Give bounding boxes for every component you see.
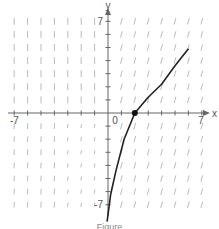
slope-segment bbox=[161, 188, 163, 194]
slope-segment bbox=[201, 31, 203, 37]
slope-segment bbox=[81, 124, 82, 128]
slope-segment bbox=[161, 175, 163, 181]
slope-segment bbox=[68, 124, 69, 128]
slope-segment bbox=[121, 136, 123, 142]
slope-segment bbox=[121, 31, 123, 37]
slope-segment bbox=[161, 18, 163, 24]
slope-segment bbox=[188, 123, 190, 129]
slope-segment bbox=[174, 84, 176, 90]
slope-segment bbox=[174, 202, 176, 208]
slope-segment bbox=[147, 71, 149, 77]
slope-segment bbox=[161, 44, 163, 50]
slope-segment bbox=[147, 57, 149, 63]
y-tick-label-max: 7 bbox=[97, 16, 103, 27]
slope-segment bbox=[188, 84, 190, 90]
slope-segment bbox=[134, 149, 136, 155]
slope-segment bbox=[147, 31, 149, 37]
slope-segment bbox=[121, 97, 123, 103]
slope-segment bbox=[81, 137, 82, 141]
slope-segment bbox=[174, 44, 176, 50]
slope-segment bbox=[188, 57, 190, 63]
slope-segment bbox=[161, 162, 163, 168]
slope-segment bbox=[134, 162, 136, 168]
slope-segment bbox=[161, 136, 163, 142]
x-tick-label-min: -7 bbox=[10, 115, 19, 126]
slope-segment bbox=[134, 97, 136, 103]
slope-segment bbox=[121, 18, 123, 24]
slope-segment bbox=[201, 162, 203, 168]
slope-segment bbox=[68, 137, 69, 141]
slope-segment bbox=[94, 163, 95, 167]
slope-segment bbox=[147, 84, 149, 90]
slope-segment bbox=[134, 57, 136, 63]
slope-segment bbox=[68, 150, 69, 154]
slope-segment bbox=[68, 203, 69, 207]
slope-segment bbox=[174, 18, 176, 24]
slope-segment bbox=[201, 71, 203, 77]
slope-segment bbox=[188, 149, 190, 155]
slope-segment bbox=[134, 18, 136, 24]
slope-segment bbox=[188, 71, 190, 77]
slope-segment bbox=[147, 123, 149, 129]
slope-segment bbox=[147, 162, 149, 168]
slope-segment bbox=[147, 18, 149, 24]
slope-segment bbox=[174, 123, 176, 129]
slope-segment bbox=[147, 202, 149, 208]
slope-segment bbox=[201, 57, 203, 63]
slope-segment bbox=[188, 162, 190, 168]
slope-field-plot: -7707-7xy bbox=[0, 0, 219, 229]
x-axis-label: x bbox=[212, 108, 217, 119]
slope-segment bbox=[161, 71, 163, 77]
slope-segment bbox=[81, 150, 82, 154]
slope-segment bbox=[94, 176, 95, 180]
slope-segment bbox=[147, 175, 149, 181]
slope-segment bbox=[121, 162, 123, 168]
slope-segment bbox=[161, 149, 163, 155]
slope-segment bbox=[121, 84, 123, 90]
slope-segment bbox=[68, 176, 69, 180]
slope-segment bbox=[94, 190, 95, 194]
slope-segment bbox=[134, 202, 136, 208]
slope-segment bbox=[174, 188, 176, 194]
slope-segment bbox=[161, 97, 163, 103]
slope-segment bbox=[94, 124, 95, 128]
origin-label: 0 bbox=[112, 115, 118, 126]
slope-segment bbox=[134, 175, 136, 181]
slope-segment bbox=[174, 162, 176, 168]
slope-segment bbox=[161, 31, 163, 37]
figure-caption: Figure bbox=[0, 222, 219, 229]
slope-segment bbox=[121, 188, 123, 194]
slope-segment bbox=[201, 188, 203, 194]
slope-segment bbox=[188, 188, 190, 194]
slope-segment bbox=[201, 97, 203, 103]
slope-segment bbox=[201, 202, 203, 208]
slope-segment bbox=[201, 84, 203, 90]
slope-segment bbox=[134, 84, 136, 90]
slope-segment bbox=[201, 18, 203, 24]
slope-segment bbox=[134, 44, 136, 50]
y-tick-label-min: -7 bbox=[94, 199, 103, 210]
slope-segment bbox=[121, 202, 123, 208]
slope-segment bbox=[174, 57, 176, 63]
slope-segment bbox=[81, 163, 82, 167]
initial-point bbox=[132, 110, 138, 116]
slope-segment bbox=[174, 31, 176, 37]
slope-segment bbox=[121, 44, 123, 50]
x-tick-label-max: 7 bbox=[198, 115, 204, 126]
slope-segment bbox=[201, 136, 203, 142]
slope-segment bbox=[201, 175, 203, 181]
slope-segment bbox=[94, 137, 95, 141]
slope-segment bbox=[174, 97, 176, 103]
slope-segment bbox=[81, 190, 82, 194]
slope-segment bbox=[81, 176, 82, 180]
slope-segment bbox=[134, 31, 136, 37]
slope-segment bbox=[161, 202, 163, 208]
slope-segment bbox=[161, 123, 163, 129]
slope-segment bbox=[121, 71, 123, 77]
slope-segment bbox=[94, 150, 95, 154]
slope-segment bbox=[121, 175, 123, 181]
slope-segment bbox=[188, 18, 190, 24]
slope-segment bbox=[174, 149, 176, 155]
slope-segment bbox=[147, 44, 149, 50]
x-axis-arrow-icon bbox=[203, 110, 210, 116]
